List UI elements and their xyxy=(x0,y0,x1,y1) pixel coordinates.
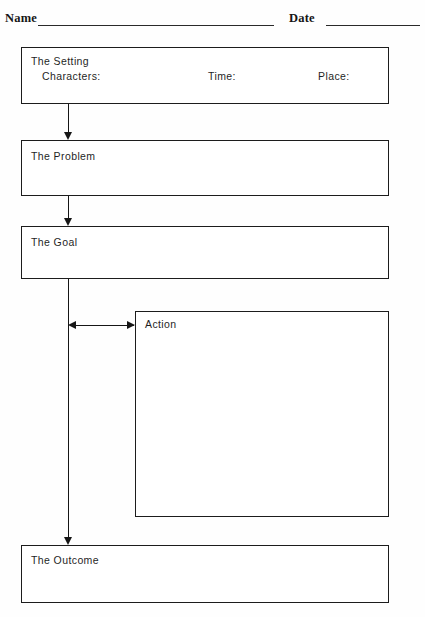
outcome-title: The Outcome xyxy=(31,554,99,566)
connector-goal-to-action-line xyxy=(70,325,134,326)
arrow-down-icon xyxy=(64,218,72,226)
problem-box[interactable] xyxy=(21,140,389,196)
arrow-down-icon xyxy=(64,132,72,140)
goal-box[interactable] xyxy=(21,226,389,279)
setting-title: The Setting xyxy=(31,55,89,67)
setting-place-label: Place: xyxy=(318,70,350,82)
name-label: Name xyxy=(5,11,37,26)
name-write-in-line[interactable] xyxy=(38,25,274,26)
connector-goal-to-outcome-line xyxy=(68,279,69,538)
date-label: Date xyxy=(289,11,315,26)
action-box[interactable] xyxy=(135,311,389,517)
connector-problem-to-goal-line xyxy=(68,196,69,218)
goal-title: The Goal xyxy=(31,236,77,248)
arrow-right-icon xyxy=(127,321,135,329)
problem-title: The Problem xyxy=(31,150,96,162)
date-write-in-line[interactable] xyxy=(326,25,420,26)
connector-setting-to-problem-line xyxy=(68,104,69,133)
setting-time-label: Time: xyxy=(208,70,236,82)
setting-characters-label: Characters: xyxy=(42,70,101,82)
arrow-down-icon xyxy=(64,537,72,545)
arrow-left-icon xyxy=(68,321,76,329)
action-title: Action xyxy=(145,318,177,330)
worksheet-page: Name Date The Setting Characters: Time: … xyxy=(0,0,425,617)
